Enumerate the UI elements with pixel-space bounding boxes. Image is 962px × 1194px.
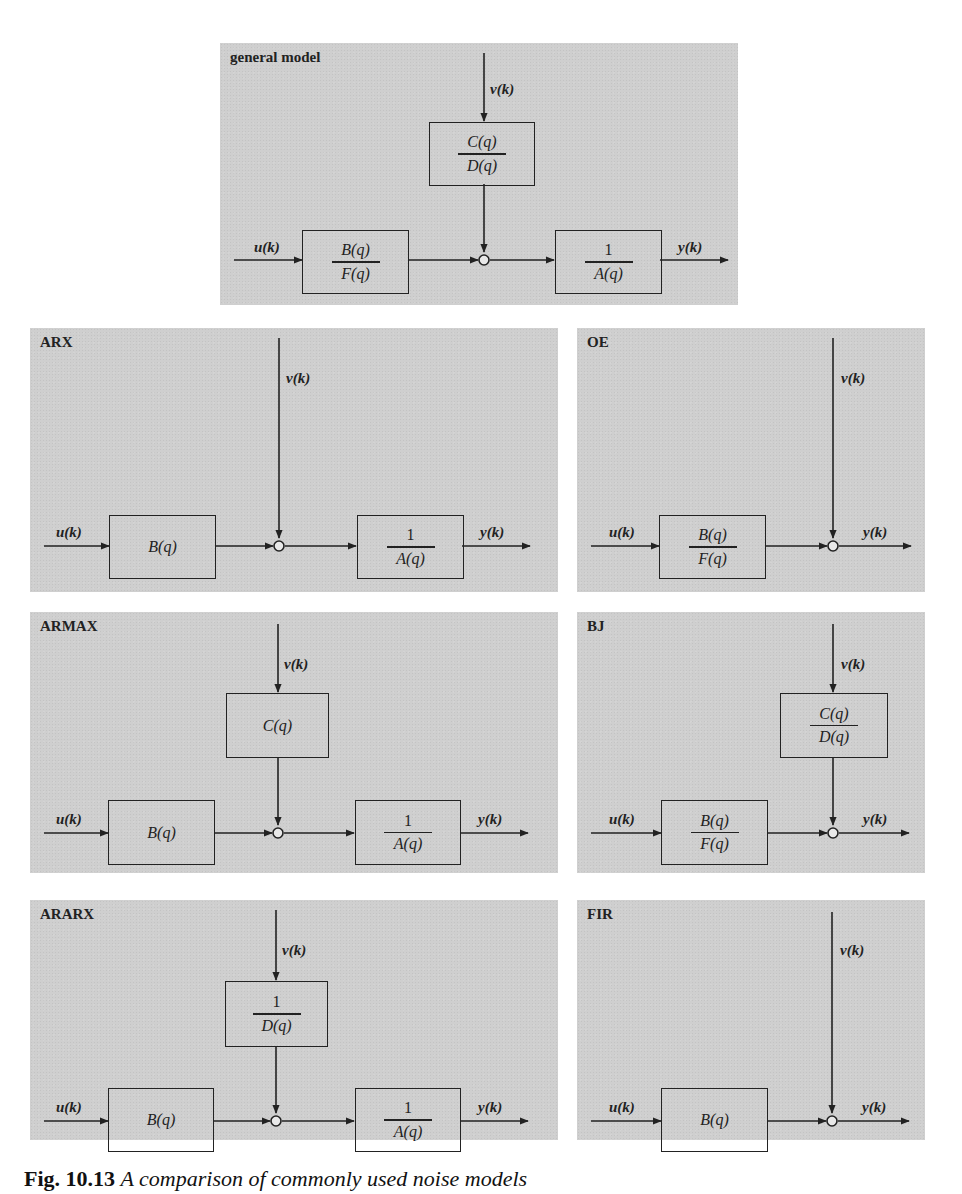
block-numerator: 1 bbox=[398, 1098, 418, 1118]
block-denominator: D(q) bbox=[461, 156, 503, 176]
panel-oe: OE v(k) u(k) B(q) F(q) y(k) bbox=[577, 328, 925, 592]
input-signal-label: u(k) bbox=[56, 811, 82, 828]
input-filter-block: B(q) bbox=[108, 1088, 214, 1152]
noise-signal-label: v(k) bbox=[284, 656, 308, 673]
panel-general-model: general model v(k) C(q) D(q) u(k) B(q) F… bbox=[220, 43, 738, 305]
summing-junction bbox=[828, 828, 838, 838]
input-filter-block: B(q) F(q) bbox=[302, 230, 409, 294]
fraction-bar bbox=[585, 261, 633, 263]
summing-junction bbox=[271, 1116, 281, 1126]
output-filter-block: 1 A(q) bbox=[355, 800, 461, 865]
output-signal-label: y(k) bbox=[678, 239, 702, 256]
output-signal-label: y(k) bbox=[863, 524, 887, 541]
input-filter-block: B(q) bbox=[661, 1088, 768, 1152]
noise-filter-block: C(q) bbox=[226, 693, 329, 758]
block-numerator: B(q) bbox=[141, 1110, 181, 1130]
input-signal-label: u(k) bbox=[56, 524, 82, 541]
block-denominator: F(q) bbox=[692, 549, 732, 569]
output-filter-block: 1 A(q) bbox=[555, 230, 662, 294]
block-denominator: A(q) bbox=[388, 1122, 428, 1142]
output-signal-label: y(k) bbox=[478, 811, 502, 828]
input-filter-block: B(q) F(q) bbox=[661, 800, 768, 865]
output-filter-block: 1 A(q) bbox=[355, 1088, 461, 1152]
output-signal-label: y(k) bbox=[862, 1099, 886, 1116]
output-signal-label: y(k) bbox=[480, 524, 504, 541]
block-denominator: D(q) bbox=[813, 727, 855, 747]
block-numerator: B(q) bbox=[694, 811, 734, 831]
caption-text: A comparison of commonly used noise mode… bbox=[121, 1166, 528, 1191]
figure-caption: Fig. 10.13 A comparison of commonly used… bbox=[24, 1166, 527, 1192]
panel-ararx: ARARX v(k) 1 D(q) u(k) B(q) 1 A(q) y(k) bbox=[30, 900, 558, 1140]
block-numerator: 1 bbox=[599, 240, 619, 260]
fraction-bar bbox=[691, 832, 739, 834]
panel-arx: ARX v(k) u(k) B(q) 1 A(q) y(k) bbox=[30, 328, 558, 592]
input-filter-block: B(q) bbox=[109, 515, 216, 579]
fraction-bar bbox=[810, 725, 858, 727]
noise-signal-label: v(k) bbox=[490, 81, 514, 98]
noise-signal-label: v(k) bbox=[282, 942, 306, 959]
block-numerator: B(q) bbox=[335, 240, 375, 260]
noise-filter-block: 1 D(q) bbox=[225, 981, 328, 1047]
block-numerator: 1 bbox=[267, 992, 287, 1012]
block-numerator: B(q) bbox=[141, 823, 181, 843]
input-filter-block: B(q) bbox=[108, 800, 215, 865]
fraction-bar bbox=[332, 261, 380, 263]
summing-junction bbox=[273, 828, 283, 838]
noise-filter-block: C(q) D(q) bbox=[429, 122, 535, 186]
noise-filter-block: C(q) D(q) bbox=[780, 693, 888, 758]
panel-armax: ARMAX v(k) C(q) u(k) B(q) 1 A(q) y(k) bbox=[30, 612, 558, 873]
fraction-bar bbox=[458, 153, 506, 155]
caption-label: Fig. 10.13 bbox=[24, 1166, 115, 1191]
summing-junction bbox=[479, 255, 489, 265]
noise-signal-label: v(k) bbox=[286, 370, 310, 387]
noise-signal-label: v(k) bbox=[841, 656, 865, 673]
output-filter-block: 1 A(q) bbox=[357, 515, 464, 579]
summing-junction bbox=[827, 1116, 837, 1126]
block-numerator: C(q) bbox=[813, 704, 854, 724]
block-denominator: F(q) bbox=[694, 834, 734, 854]
input-signal-label: u(k) bbox=[609, 524, 635, 541]
input-filter-block: B(q) F(q) bbox=[659, 515, 766, 579]
block-denominator: F(q) bbox=[335, 264, 375, 284]
block-denominator: A(q) bbox=[588, 264, 628, 284]
block-numerator: B(q) bbox=[694, 1110, 734, 1130]
block-numerator: 1 bbox=[401, 525, 421, 545]
input-signal-label: u(k) bbox=[609, 811, 635, 828]
fraction-bar bbox=[384, 832, 432, 834]
fraction-bar bbox=[689, 546, 737, 548]
block-numerator: B(q) bbox=[142, 537, 182, 557]
noise-signal-label: v(k) bbox=[840, 942, 864, 959]
input-signal-label: u(k) bbox=[609, 1099, 635, 1116]
fraction-bar bbox=[253, 1013, 301, 1015]
summing-junction bbox=[274, 541, 284, 551]
block-numerator: B(q) bbox=[692, 525, 732, 545]
block-denominator: D(q) bbox=[255, 1016, 297, 1036]
fraction-bar bbox=[387, 546, 435, 548]
summing-junction bbox=[828, 541, 838, 551]
block-denominator: A(q) bbox=[388, 834, 428, 854]
panel-bj: BJ v(k) C(q) D(q) u(k) B(q) F(q) y(k) bbox=[577, 612, 925, 873]
block-numerator: C(q) bbox=[461, 132, 502, 152]
fraction-bar bbox=[384, 1119, 432, 1121]
block-denominator: A(q) bbox=[390, 549, 430, 569]
output-signal-label: y(k) bbox=[863, 811, 887, 828]
panel-fir: FIR v(k) u(k) B(q) y(k) bbox=[577, 900, 925, 1140]
block-numerator: C(q) bbox=[257, 716, 298, 736]
noise-signal-label: v(k) bbox=[841, 370, 865, 387]
input-signal-label: u(k) bbox=[254, 239, 280, 256]
input-signal-label: u(k) bbox=[56, 1099, 82, 1116]
block-numerator: 1 bbox=[398, 811, 418, 831]
output-signal-label: y(k) bbox=[478, 1099, 502, 1116]
